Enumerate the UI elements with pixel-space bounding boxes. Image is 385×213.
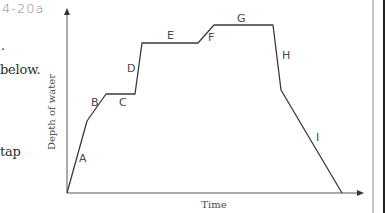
y-axis-label: Depth of water [46,74,57,150]
page-edge-divider [372,0,374,213]
segment-label-d: D [127,62,135,75]
depth-line [67,25,342,193]
y-axis-arrow-icon [64,8,70,15]
segment-label-i: I [316,131,319,144]
depth-time-graph: A B C D E F G H I Time Depth of water [0,0,385,213]
segment-label-h: H [282,49,290,62]
segment-label-f: F [208,31,214,44]
segment-label-c: C [119,96,127,109]
segment-label-b: B [91,96,99,109]
x-axis-label: Time [201,199,226,210]
segment-label-a: A [79,152,87,165]
x-axis-arrow-icon [357,190,364,196]
segment-label-g: G [237,12,246,25]
segment-label-e: E [167,29,174,42]
